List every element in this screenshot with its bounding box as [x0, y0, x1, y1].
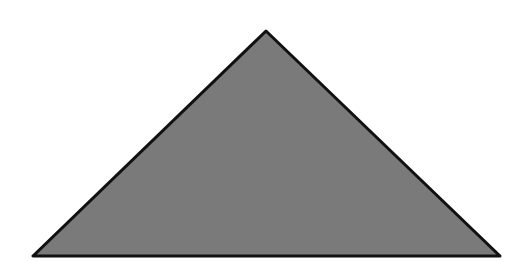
gray-triangle	[33, 31, 500, 256]
diagram-canvas	[0, 0, 517, 262]
